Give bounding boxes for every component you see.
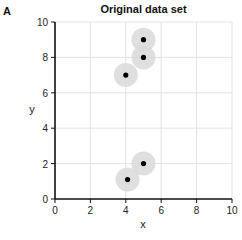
y-tick-label: 2 [42, 159, 48, 170]
y-tick-label: 4 [42, 123, 48, 134]
y-axis-label: y [29, 103, 35, 115]
x-tick-label: 0 [52, 205, 58, 216]
x-tick-label: 2 [88, 205, 94, 216]
data-point [141, 37, 146, 42]
y-tick-label: 8 [42, 52, 48, 63]
x-tick-label: 8 [194, 205, 200, 216]
x-tick-label: 10 [226, 205, 238, 216]
x-tick-label: 6 [158, 205, 164, 216]
data-point [141, 55, 146, 60]
scatter-plot: 02468100246810 x y [0, 0, 242, 240]
data-point [123, 73, 128, 78]
data-point [125, 177, 130, 182]
point-halos [114, 28, 156, 192]
x-axis-label: x [140, 218, 146, 230]
y-tick-label: 6 [42, 88, 48, 99]
data-point [141, 161, 146, 166]
y-tick-label: 0 [42, 194, 48, 205]
y-tick-label: 10 [37, 17, 49, 28]
x-tick-label: 4 [123, 205, 129, 216]
